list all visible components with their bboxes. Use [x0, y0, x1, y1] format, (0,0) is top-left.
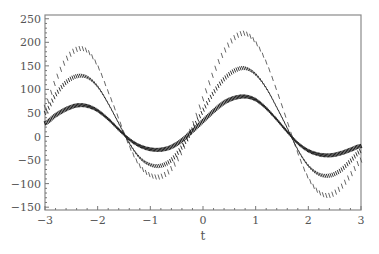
y-tick-label: 200: [20, 36, 41, 49]
y-tick-label: −50: [18, 154, 41, 167]
y-axis: 250200150100500−50−100−150: [11, 13, 49, 214]
y-tick-label: 50: [27, 107, 41, 120]
x-tick-label: 2: [305, 214, 312, 227]
y-tick-label: −100: [11, 178, 41, 191]
series-outer: [44, 31, 362, 198]
x-axis-title: t: [201, 229, 206, 243]
x-tick-label: 1: [252, 214, 259, 227]
x-tick-label: 3: [358, 214, 365, 227]
series-inner: [44, 94, 362, 157]
x-tick-label: −2: [90, 214, 106, 227]
x-tick-label: −3: [37, 214, 53, 227]
series-middle: [44, 66, 361, 178]
y-tick-label: 150: [20, 60, 41, 73]
y-tick-label: 0: [34, 131, 41, 144]
y-tick-label: 100: [20, 83, 41, 96]
x-axis: −3−2−10123: [37, 206, 365, 227]
y-tick-label: 250: [20, 13, 41, 26]
plot-frame: [45, 15, 361, 210]
x-tick-label: 0: [200, 214, 207, 227]
line-plot: −3−2−10123 250200150100500−50−100−150 t: [0, 0, 379, 254]
x-tick-label: −1: [142, 214, 158, 227]
y-tick-label: −150: [11, 201, 41, 214]
data-series: [44, 31, 362, 198]
